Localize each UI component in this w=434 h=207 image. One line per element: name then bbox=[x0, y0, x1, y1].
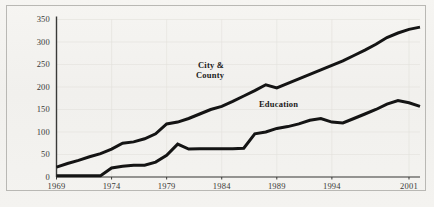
line-chart-svg bbox=[0, 0, 434, 207]
x-tick-label: 1979 bbox=[147, 181, 187, 191]
series-annotation-label: County bbox=[196, 70, 224, 80]
x-tick-label: 1969 bbox=[37, 181, 77, 191]
x-tick-label: 1989 bbox=[257, 181, 297, 191]
y-tick-label: 0 bbox=[18, 172, 50, 182]
plot-area bbox=[0, 0, 434, 207]
y-tick-label: 150 bbox=[18, 104, 50, 114]
x-tick-label: 1994 bbox=[312, 181, 352, 191]
axis-lines bbox=[57, 17, 421, 178]
y-tick-label: 350 bbox=[18, 14, 50, 24]
x-tick-label: 2001 bbox=[389, 181, 429, 191]
series-annotation-label: Education bbox=[259, 99, 298, 109]
y-tick-label: 300 bbox=[18, 37, 50, 47]
y-tick-label: 250 bbox=[18, 59, 50, 69]
x-tick-label: 1974 bbox=[92, 181, 132, 191]
y-tick-label: 100 bbox=[18, 127, 50, 137]
data-series bbox=[57, 27, 421, 176]
series-line-city-county bbox=[57, 27, 421, 167]
series-line-education bbox=[57, 101, 421, 176]
y-tick-label: 50 bbox=[18, 149, 50, 159]
x-tick-label: 1984 bbox=[202, 181, 242, 191]
y-tick-label: 200 bbox=[18, 82, 50, 92]
chart-figure: 050100150200250300350 196919741979198419… bbox=[0, 0, 434, 207]
series-annotation-label: City & bbox=[198, 60, 224, 70]
